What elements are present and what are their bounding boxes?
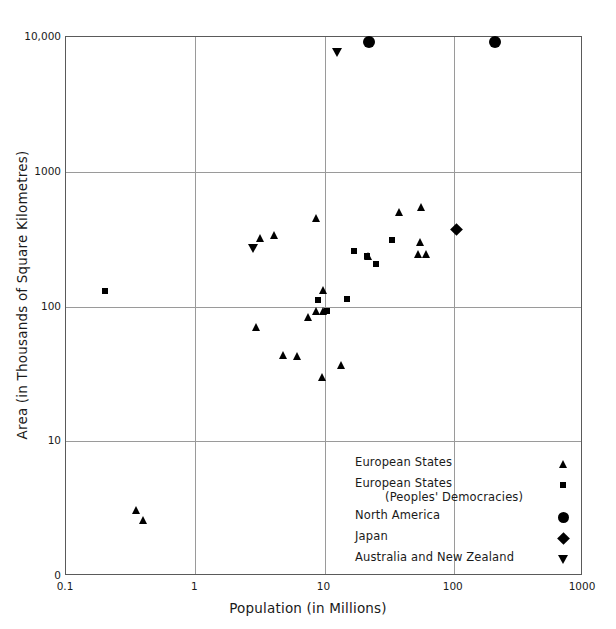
- legend-item[interactable]: European States(Peoples' Democracies): [355, 476, 570, 504]
- data-point-square: [102, 288, 108, 294]
- data-point-triangle-up: [304, 313, 312, 321]
- data-point-diamond: [450, 224, 463, 237]
- gridline-horizontal: [66, 172, 581, 173]
- data-point-triangle-up: [293, 352, 301, 360]
- chart-legend: European StatesEuropean States(Peoples' …: [355, 455, 570, 571]
- data-point-triangle-up: [139, 516, 147, 524]
- diamond-icon-glyph: [557, 532, 570, 545]
- diamond-icon: [556, 531, 570, 545]
- data-point-triangle-up: [422, 250, 430, 258]
- data-point-square: [364, 253, 370, 259]
- data-point-triangle-up: [279, 351, 287, 359]
- circle-icon: [556, 510, 570, 524]
- triangle-up-icon: [556, 457, 570, 471]
- data-point-triangle-up: [256, 234, 264, 242]
- legend-item-label: European States: [355, 455, 570, 469]
- data-point-square: [389, 237, 395, 243]
- legend-item-label: Australia and New Zealand: [355, 550, 570, 564]
- data-point-square: [315, 297, 321, 303]
- y-tick-label: 1000: [34, 165, 61, 177]
- data-point-triangle-up: [312, 307, 320, 315]
- x-axis-title: Population (in Millions): [0, 600, 616, 616]
- data-point-triangle-up: [318, 373, 326, 381]
- data-point-square: [324, 308, 330, 314]
- data-point-square: [373, 261, 379, 267]
- data-point-triangle-down: [332, 48, 342, 57]
- y-tick-label: 100: [41, 300, 61, 312]
- y-axis-title: Area (in Thousands of Square Kilometres): [14, 35, 30, 555]
- scatter-chart-figure: 010100100010,000 0.11101001000 Populatio…: [0, 0, 616, 629]
- gridline-horizontal: [66, 441, 581, 442]
- x-tick-label: 1000: [569, 580, 596, 592]
- y-tick-label: 10: [48, 434, 61, 446]
- data-point-triangle-up: [337, 361, 345, 369]
- data-point-circle: [489, 36, 501, 48]
- data-point-triangle-up: [414, 250, 422, 258]
- y-axis-tick-labels: 010100100010,000: [0, 0, 61, 629]
- data-point-triangle-up: [252, 323, 260, 331]
- legend-item[interactable]: European States: [355, 455, 570, 472]
- legend-item-label: Japan: [355, 529, 570, 543]
- triangle-up-icon-glyph: [559, 460, 567, 468]
- data-point-triangle-up: [417, 203, 425, 211]
- triangle-down-icon-glyph: [558, 555, 568, 564]
- y-axis-title-wrapper: Area (in Thousands of Square Kilometres): [0, 0, 1, 1]
- x-tick-label: 100: [443, 580, 463, 592]
- x-axis-tick-labels: 0.11101001000: [0, 580, 616, 596]
- data-point-circle: [363, 36, 375, 48]
- data-point-square: [351, 248, 357, 254]
- legend-item-label: European States(Peoples' Democracies): [355, 476, 570, 504]
- data-point-triangle-up: [395, 208, 403, 216]
- x-tick-label: 10: [317, 580, 330, 592]
- data-point-triangle-up: [416, 238, 424, 246]
- circle-icon-glyph: [558, 512, 569, 523]
- x-tick-label: 1: [191, 580, 198, 592]
- legend-item[interactable]: Japan: [355, 529, 570, 546]
- data-point-triangle-up: [270, 231, 278, 239]
- square-icon: [556, 478, 570, 492]
- data-point-triangle-up: [319, 286, 327, 294]
- data-point-square: [344, 296, 350, 302]
- legend-item[interactable]: Australia and New Zealand: [355, 550, 570, 567]
- data-point-triangle-down: [248, 244, 258, 253]
- gridline-vertical: [325, 37, 326, 574]
- data-point-triangle-up: [312, 214, 320, 222]
- triangle-down-icon: [556, 552, 570, 566]
- x-tick-label: 0.1: [57, 580, 74, 592]
- legend-item-label: North America: [355, 508, 570, 522]
- legend-item-sublabel: (Peoples' Democracies): [355, 490, 570, 504]
- data-point-triangle-up: [132, 506, 140, 514]
- gridline-vertical: [195, 37, 196, 574]
- square-icon-glyph: [560, 482, 566, 488]
- legend-item[interactable]: North America: [355, 508, 570, 525]
